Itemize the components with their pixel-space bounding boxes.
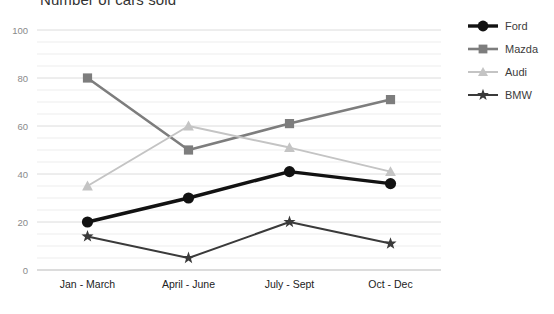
y-axis-tick-label: 20 [17,217,28,228]
x-axis-tick-label: Jan - March [60,278,116,290]
legend-item-0[interactable]: Ford [466,14,554,37]
chart-legend: Ford Mazda Audi BMW [466,14,554,106]
data-point-ford [284,166,295,177]
legend-marker-audi [466,63,500,81]
data-point-bmw [384,237,396,249]
data-point-mazda [285,119,294,128]
data-point-mazda [83,73,92,82]
data-point-mazda [386,95,395,104]
data-point-bmw [81,230,93,242]
y-axis-tick-label: 60 [17,121,28,132]
legend-label-mazda: Mazda [505,43,538,55]
legend-marker-mazda [466,40,500,58]
data-point-ford [385,178,396,189]
series-lines [88,78,391,258]
legend-marker-bmw [466,86,500,104]
x-axis-tick-label: July - Sept [265,278,315,290]
series-line-bmw [88,222,391,258]
chart-container: Number of cars sold 020406080100 Jan - M… [0,0,554,314]
minor-gridlines [37,42,441,258]
y-axis-tick-label: 100 [12,25,28,36]
legend-swatch-icon [466,86,500,104]
legend-swatch-icon [466,17,500,35]
y-axis-tick-label: 80 [17,73,28,84]
data-point-ford [183,192,194,203]
legend-item-3[interactable]: BMW [466,83,554,106]
y-axis-tick-label: 0 [23,265,28,276]
y-axis-tick-label: 40 [17,169,28,180]
data-point-bmw [182,252,194,264]
legend-label-bmw: BMW [505,89,532,101]
legend-marker-ford [466,17,500,35]
legend-item-2[interactable]: Audi [466,60,554,83]
x-axis-tick-labels: Jan - MarchApril - JuneJuly - SeptOct - … [60,278,413,290]
data-point-mazda [184,145,193,154]
x-axis-tick-label: Oct - Dec [368,278,412,290]
major-gridlines [37,30,441,222]
legend-label-audi: Audi [505,66,527,78]
legend-item-1[interactable]: Mazda [466,37,554,60]
series-line-ford [88,172,391,222]
legend-label-ford: Ford [505,20,528,32]
x-axis-tick-label: April - June [162,278,215,290]
data-point-bmw [283,216,295,228]
y-axis-tick-labels: 020406080100 [12,25,28,276]
legend-swatch-icon [466,63,500,81]
data-point-ford [82,216,93,227]
legend-swatch-icon [466,40,500,58]
